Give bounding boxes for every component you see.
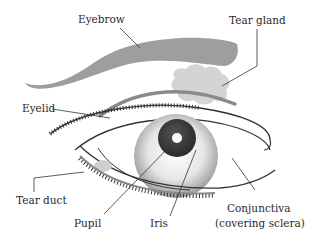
label-tear-gland: Tear gland: [229, 14, 286, 26]
leader-conjunctiva: [232, 158, 255, 190]
label-tear-duct: Tear duct: [16, 194, 67, 206]
leader-tear-duct: [34, 172, 84, 192]
label-pupil: Pupil: [74, 217, 101, 229]
lid-fold: [100, 92, 235, 116]
label-eyelid: Eyelid: [22, 102, 55, 114]
leader-eyebrow: [120, 28, 140, 48]
pupil-highlight: [172, 133, 182, 143]
label-conjunctiva: Conjunctiva: [227, 202, 291, 214]
label-iris: Iris: [150, 217, 168, 229]
label-eyebrow: Eyebrow: [78, 13, 125, 25]
label-covering-sclera: (covering sclera): [215, 217, 305, 229]
